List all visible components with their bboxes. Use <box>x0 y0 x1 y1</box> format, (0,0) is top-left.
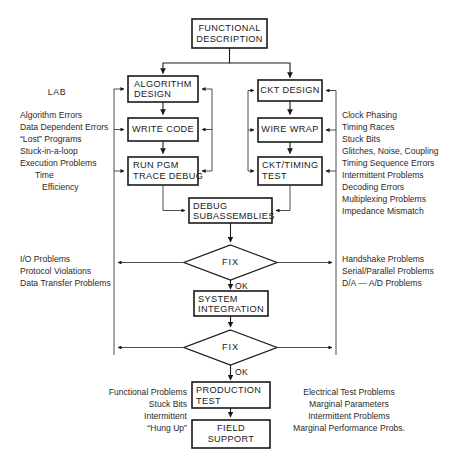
node-write-code: WRITE CODE <box>128 118 198 141</box>
production-right-0: Electrical Test Problems <box>303 387 395 397</box>
node-ckt-timing-test: CKT/TIMING TEST <box>258 157 322 185</box>
node-wire-wrap: WIRE WRAP <box>258 118 322 142</box>
production-left-0: Functional Problems <box>109 387 187 397</box>
production-test-label-line2: TEST <box>196 396 221 406</box>
production-right-1: Marginal Parameters <box>309 399 389 409</box>
node-debug-subassemblies: DEBUG SUBASSEMBLIES <box>189 198 275 223</box>
integration-right-1: Serial/Parallel Problems <box>342 266 434 276</box>
algorithm-design-label-line2: DESIGN <box>134 89 171 99</box>
production-right-2: Intermittent Problems <box>308 411 390 421</box>
debug-subassemblies-label-line1: DEBUG <box>193 201 227 211</box>
production-right-3: Marginal Performance Probs. <box>293 423 405 433</box>
node-field-support: FIELD SUPPORT <box>192 420 270 448</box>
write-code-label: WRITE CODE <box>132 124 194 134</box>
field-support-label-line1: FIELD <box>217 423 245 433</box>
field-support-label-line2: SUPPORT <box>208 434 255 444</box>
integration-right-2: D/A — A/D Problems <box>342 278 422 288</box>
software-problem-0: Algorithm Errors <box>20 110 82 120</box>
software-problem-1: Data Dependent Errors <box>20 122 108 132</box>
fix-1-label: FIX <box>222 257 239 267</box>
integration-right-0: Handshake Problems <box>342 254 424 264</box>
ckt-timing-test-label-line1: CKT/TIMING <box>262 160 319 170</box>
hardware-problem-0: Clock Phasing <box>342 110 397 120</box>
flowchart-diagram: FUNCTIONAL DESCRIPTION ALGORITHM DESIGN … <box>0 0 454 470</box>
run-pgm-label-line1: RUN PGM <box>133 160 179 170</box>
node-system-integration: SYSTEM INTEGRATION <box>194 291 268 316</box>
system-integration-label-line1: SYSTEM <box>198 294 238 304</box>
node-functional-description: FUNCTIONAL DESCRIPTION <box>192 19 267 48</box>
annotations-integration-right: Handshake Problems Serial/Parallel Probl… <box>342 254 434 288</box>
ok-label-1: OK <box>235 281 248 291</box>
hardware-problem-3: Glitches, Noise, Coupling <box>342 146 439 156</box>
hardware-problem-8: Impedance Mismatch <box>342 206 424 216</box>
algorithm-design-label-line1: ALGORITHM <box>134 79 192 89</box>
run-pgm-label-line2: TRACE DEBUG <box>133 171 203 181</box>
system-integration-label-line2: INTEGRATION <box>198 304 264 314</box>
ckt-timing-test-label-line2: TEST <box>262 171 287 181</box>
integration-left-2: Data Transfer Problems <box>20 278 111 288</box>
software-problem-2: “Lost” Programs <box>20 134 82 144</box>
hardware-problem-1: Timing Races <box>342 122 394 132</box>
lab-heading: LAB <box>48 87 66 97</box>
integration-left-1: Protocol Violations <box>20 266 91 276</box>
hardware-problem-4: Timing Sequence Errors <box>342 158 434 168</box>
functional-description-label-line2: DESCRIPTION <box>196 34 263 44</box>
hardware-problem-5: Intermittent Problems <box>342 170 424 180</box>
ckt-design-label: CKT DESIGN <box>260 85 320 95</box>
ok-label-2: OK <box>235 367 248 377</box>
production-left-3: “Hung Up” <box>147 423 187 433</box>
software-problem-4: Execution Problems <box>20 158 96 168</box>
node-ckt-design: CKT DESIGN <box>258 80 322 101</box>
production-left-1: Stuck Bits <box>149 399 187 409</box>
node-production-test: PRODUCTION TEST <box>192 382 270 408</box>
hardware-problem-6: Decoding Errors <box>342 182 404 192</box>
debug-subassemblies-label-line2: SUBASSEMBLIES <box>193 211 275 221</box>
node-run-pgm-trace-debug: RUN PGM TRACE DEBUG <box>128 157 203 185</box>
functional-description-label-line1: FUNCTIONAL <box>198 23 260 33</box>
hardware-problem-7: Multiplexing Problems <box>342 194 426 204</box>
software-problem-3: Stuck-in-a-loop <box>20 146 78 156</box>
hardware-problem-2: Stuck Bits <box>342 134 380 144</box>
production-left-2: Intermittent <box>144 411 188 421</box>
production-test-label-line1: PRODUCTION <box>196 385 261 395</box>
fix-2-label: FIX <box>222 342 239 352</box>
software-problem-6: Efficiency <box>42 182 79 192</box>
software-problem-5: Time <box>35 170 54 180</box>
node-algorithm-design: ALGORITHM DESIGN <box>128 76 198 102</box>
wire-wrap-label: WIRE WRAP <box>261 124 318 134</box>
integration-left-0: I/O Problems <box>20 254 70 264</box>
